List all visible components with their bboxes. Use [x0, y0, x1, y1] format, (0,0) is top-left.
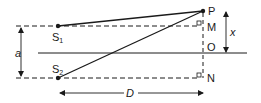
right-angle-m-icon — [197, 21, 201, 25]
label-s1-sub: 1 — [59, 37, 63, 44]
label-s2-main: S — [52, 63, 59, 75]
label-s1: S1 — [52, 31, 63, 44]
ray-s1-p — [58, 11, 203, 26]
label-s1-main: S — [52, 31, 59, 43]
label-d: D — [126, 87, 134, 99]
label-a: a — [15, 47, 21, 59]
double-slit-diagram: P M O N S1 S2 a x D — [0, 0, 261, 103]
label-o: O — [207, 41, 216, 53]
ray-s2-p — [58, 11, 203, 78]
label-x: x — [229, 26, 236, 38]
point-s2 — [56, 76, 60, 80]
point-s1 — [56, 24, 60, 28]
right-angle-n-icon — [197, 73, 201, 77]
point-p — [201, 9, 205, 13]
label-p: P — [208, 5, 215, 17]
label-s2: S2 — [52, 63, 63, 76]
label-m: M — [207, 21, 216, 33]
label-n: N — [207, 72, 215, 84]
label-s2-sub: 2 — [59, 69, 63, 76]
